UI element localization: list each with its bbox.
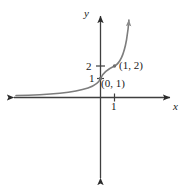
x-axis-label: x xyxy=(173,101,178,112)
data-point-1-2 xyxy=(113,64,116,67)
y-tick-label-1: 1 xyxy=(89,73,95,84)
point-label-1-2: (1, 2) xyxy=(119,60,143,71)
y-tick-label-2: 2 xyxy=(86,61,92,72)
point-label-0-1: (0, 1) xyxy=(101,78,125,89)
x-tick-label-1: 1 xyxy=(111,101,117,112)
y-axis-label: y xyxy=(84,8,89,19)
graph-canvas xyxy=(0,0,187,194)
exponential-function-graph: y x 2 1 1 (1, 2) (0, 1) xyxy=(0,0,187,194)
